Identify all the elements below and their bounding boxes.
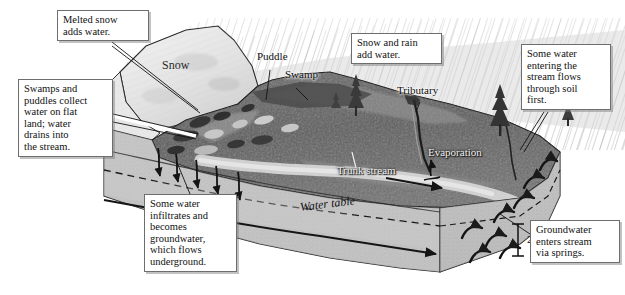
callout-line: Melted snow [63, 14, 143, 26]
callout-line: via springs. [536, 247, 614, 259]
label-puddle: Puddle [257, 50, 288, 62]
callout-line: adds water. [63, 26, 143, 38]
callout-snow-and-rain[interactable]: Snow and rain add water. [351, 33, 442, 64]
callout-line: underground. [150, 256, 231, 268]
callout-swamps-puddles[interactable]: Swamps and puddles collect water on flat… [18, 79, 113, 157]
callout-line: becomes [150, 221, 231, 233]
callout-infiltration[interactable]: Some water infiltrates and becomes groun… [144, 194, 237, 272]
callout-groundwater-springs[interactable]: Groundwater enters stream via springs. [530, 220, 620, 263]
callout-line: groundwater, [150, 233, 231, 245]
callout-line: water on flat [24, 106, 107, 118]
label-trunk-stream: Trunk stream [337, 164, 396, 176]
label-snow: Snow [162, 58, 189, 73]
callout-line: puddles collect [24, 95, 107, 107]
callout-line: stream flows [527, 71, 605, 83]
callout-line: the stream. [24, 141, 107, 153]
callout-line: add water. [357, 49, 436, 61]
label-evaporation: Evaporation [428, 146, 482, 158]
callout-line: first. [527, 94, 605, 106]
callout-line: which flows [150, 244, 231, 256]
callout-line: Groundwater [536, 224, 614, 236]
callout-line: enters stream [536, 236, 614, 248]
figure-canvas: Melted snow adds water. Swamps and puddl… [0, 0, 625, 295]
label-tributary: Tributary [397, 84, 438, 96]
callout-line: through soil [527, 83, 605, 95]
callout-line: entering the [527, 60, 605, 72]
callout-through-soil[interactable]: Some water entering the stream flows thr… [521, 44, 611, 110]
label-swamp: Swamp [285, 68, 318, 80]
callout-melted-snow[interactable]: Melted snow adds water. [57, 10, 149, 41]
callout-line: drains into [24, 129, 107, 141]
callout-line: Snow and rain [357, 37, 436, 49]
callout-line: Swamps and [24, 83, 107, 95]
callout-line: Some water [527, 48, 605, 60]
callout-line: land; water [24, 118, 107, 130]
callout-line: infiltrates and [150, 210, 231, 222]
callout-line: Some water [150, 198, 231, 210]
